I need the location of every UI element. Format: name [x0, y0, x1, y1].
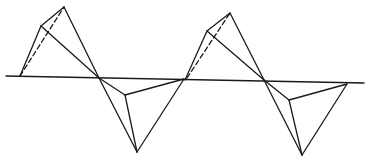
- edge-cross-to-inner: [264, 80, 289, 100]
- edge-left-to-apex: [41, 7, 64, 26]
- edge-foot-to-left: [185, 31, 207, 80]
- edge-inner-to-bottom: [289, 100, 302, 155]
- edge-left-to-apex: [207, 13, 230, 31]
- figure-1-upper-triangle: [20, 7, 99, 78]
- edge-left-to-cross: [41, 26, 99, 78]
- edge-inner-to-bottom: [125, 95, 137, 152]
- figure-2-lower-triangle: [264, 80, 347, 155]
- twisted-triangles-diagram: [0, 0, 369, 163]
- edge-left-to-cross: [207, 31, 264, 80]
- figure-2-upper-triangle: [185, 13, 264, 80]
- edge-cross-to-bottom: [99, 78, 137, 152]
- edge-apex-to-cross: [64, 7, 99, 78]
- edge-cross-to-bottom: [264, 80, 302, 155]
- diagram-canvas: [0, 0, 369, 163]
- edge-apex-to-cross: [230, 13, 264, 80]
- edge-foot-to-left: [20, 26, 41, 76]
- figure-1-lower-triangle: [99, 78, 184, 152]
